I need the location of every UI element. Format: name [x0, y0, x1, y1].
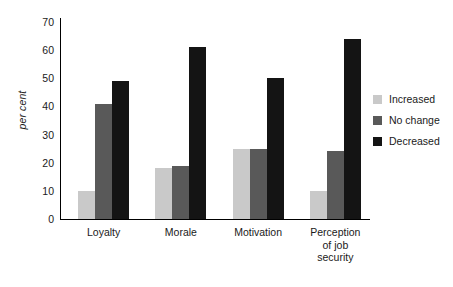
y-axis-title: per cent	[16, 80, 28, 140]
bar[interactable]	[112, 81, 129, 219]
legend-label: Increased	[389, 94, 435, 105]
bar-group-bars	[233, 22, 284, 219]
x-axis-line	[60, 219, 370, 220]
legend-swatch-icon	[373, 116, 382, 125]
bar[interactable]	[189, 47, 206, 219]
bar-group-bars	[310, 22, 361, 219]
bar[interactable]	[172, 166, 189, 219]
y-axis-tick: 40	[28, 101, 54, 111]
bar[interactable]	[78, 191, 95, 219]
y-axis-tick-labels: 010203040506070	[28, 0, 54, 287]
bar[interactable]	[155, 168, 172, 219]
bar-group-bars	[155, 22, 206, 219]
bar-chart: per cent 010203040506070 LoyaltyMoraleMo…	[0, 0, 453, 287]
bar[interactable]	[95, 104, 112, 219]
legend-label: Decreased	[389, 136, 440, 147]
bar-group	[310, 22, 361, 219]
plot-area	[61, 22, 370, 219]
chart-legend: IncreasedNo changeDecreased	[373, 90, 453, 153]
y-axis-tick: 10	[28, 186, 54, 196]
legend-label: No change	[389, 115, 440, 126]
x-axis-category-label-line: Perception	[290, 226, 380, 239]
bar-group	[155, 22, 206, 219]
bar[interactable]	[250, 149, 267, 219]
bar[interactable]	[327, 151, 344, 219]
legend-item[interactable]: Increased	[373, 90, 453, 108]
y-axis-tick: 30	[28, 130, 54, 140]
bar[interactable]	[233, 149, 250, 219]
bar[interactable]	[310, 191, 327, 219]
bar[interactable]	[344, 39, 361, 219]
bar-group	[233, 22, 284, 219]
legend-item[interactable]: Decreased	[373, 132, 453, 150]
y-axis-tick: 50	[28, 73, 54, 83]
x-axis-category-label-line: security	[290, 251, 380, 264]
legend-item[interactable]: No change	[373, 111, 453, 129]
bar[interactable]	[267, 78, 284, 219]
y-axis-tick: 0	[28, 214, 54, 224]
legend-swatch-icon	[373, 95, 382, 104]
legend-swatch-icon	[373, 137, 382, 146]
x-axis-category-label: Perceptionof jobsecurity	[290, 226, 380, 264]
y-axis-tick: 60	[28, 45, 54, 55]
y-axis-tick: 20	[28, 158, 54, 168]
bar-group	[78, 22, 129, 219]
bar-group-bars	[78, 22, 129, 219]
x-axis-category-label-line: of job	[290, 239, 380, 252]
y-axis-tick: 70	[28, 17, 54, 27]
